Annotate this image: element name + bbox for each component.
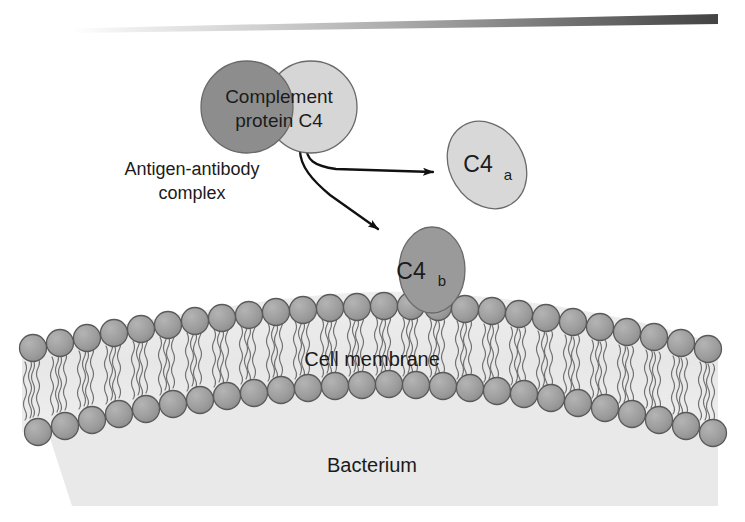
lipid-head <box>641 324 668 351</box>
c4-label-line2: protein C4 <box>235 110 323 131</box>
tapered-gradient-rule <box>72 14 718 33</box>
lipid-head <box>101 320 128 347</box>
diagram-canvas: C4 b C4 a Complement protein C4 Antigen-… <box>0 0 745 522</box>
antigen-antibody-label-line2: complex <box>158 183 225 203</box>
lipid-head <box>560 309 587 336</box>
lipid-head <box>317 295 344 322</box>
lipid-head <box>187 387 214 414</box>
c4a-label: C4 <box>463 151 493 177</box>
lipid-head <box>133 396 160 423</box>
lipid-head <box>182 308 209 335</box>
lipid-head <box>484 378 511 405</box>
lipid-head <box>376 371 403 398</box>
lipid-head <box>587 314 614 341</box>
c4b-label: C4 <box>396 258 426 284</box>
antigen-antibody-label-line1: Antigen-antibody <box>124 159 259 179</box>
complement-protein-c4-group: Complement protein C4 <box>201 61 357 153</box>
lipid-head <box>209 305 236 332</box>
lipid-head <box>268 377 295 404</box>
figure-root: C4 b C4 a Complement protein C4 Antigen-… <box>0 0 745 522</box>
lipid-head <box>538 385 565 412</box>
lipid-head <box>349 372 376 399</box>
lipid-head <box>47 330 74 357</box>
lipid-head <box>506 301 533 328</box>
lipid-head <box>155 312 182 339</box>
lipid-head <box>700 420 727 447</box>
lipid-head <box>668 330 695 357</box>
lipid-head <box>74 325 101 352</box>
cell-membrane-label: Cell membrane <box>304 348 440 370</box>
lipid-head <box>614 319 641 346</box>
lipid-head <box>79 407 106 434</box>
lipid-head <box>344 294 371 321</box>
lipid-head <box>695 336 722 363</box>
lipid-head <box>371 293 398 320</box>
bacterium-label: Bacterium <box>327 454 417 476</box>
c4a-subscript: a <box>504 166 513 183</box>
lipid-head <box>646 407 673 434</box>
lipid-head <box>403 372 430 399</box>
lipid-head <box>322 373 349 400</box>
lipid-head <box>430 373 457 400</box>
lipid-head <box>52 413 79 440</box>
lipid-head <box>295 375 322 402</box>
lipid-head <box>236 302 263 329</box>
lipid-head <box>263 299 290 326</box>
lipid-head <box>25 419 52 446</box>
lipid-head <box>619 401 646 428</box>
lipid-head <box>241 380 268 407</box>
lipid-head <box>673 413 700 440</box>
lipid-head <box>511 381 538 408</box>
lipid-head <box>290 297 317 324</box>
c4a-fragment-group: C4 a <box>431 106 543 223</box>
lipid-head <box>106 401 133 428</box>
lipid-head <box>160 391 187 418</box>
lipid-head <box>592 395 619 422</box>
lipid-head <box>128 316 155 343</box>
c4-left-circle <box>201 61 293 153</box>
cleavage-arrows <box>300 145 433 229</box>
lipid-head <box>20 335 47 362</box>
lipid-head <box>479 298 506 325</box>
lipid-head <box>457 375 484 402</box>
c4-label-line1: Complement <box>225 86 333 107</box>
lipid-head <box>533 305 560 332</box>
c4b-subscript: b <box>438 272 446 289</box>
top-rule-group <box>72 14 718 33</box>
lipid-head <box>214 383 241 410</box>
lipid-head <box>565 390 592 417</box>
